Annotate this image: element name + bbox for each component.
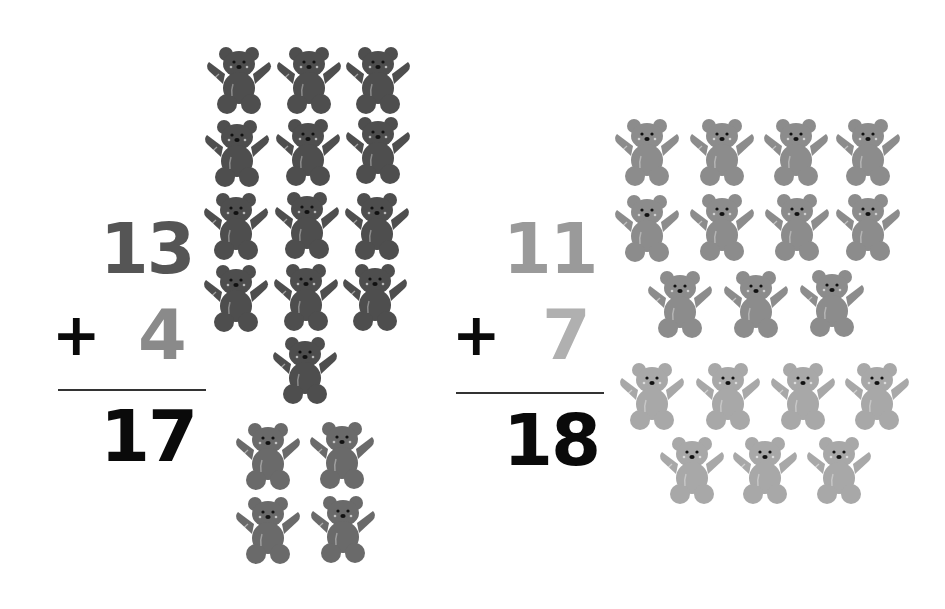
sum-line [58, 389, 206, 391]
bear-icon [658, 434, 726, 506]
bear-icon [341, 261, 409, 333]
bear-icon [688, 191, 756, 263]
bear-icon [694, 360, 762, 432]
bear-icon [205, 44, 273, 116]
bear-icon [271, 334, 339, 406]
bear-icon [762, 116, 830, 188]
bear-icon [234, 420, 302, 492]
bear-icon [274, 116, 342, 188]
plus-sign: + [52, 306, 101, 364]
bear-icon [344, 44, 412, 116]
bear-icon [203, 117, 271, 189]
addend-2: 7 [542, 300, 589, 370]
bear-icon [722, 268, 790, 340]
bear-icon [613, 192, 681, 264]
bear-icon [308, 419, 376, 491]
bear-icon [272, 261, 340, 333]
bear-icon [763, 191, 831, 263]
bear-icon [273, 189, 341, 261]
bear-icon [613, 116, 681, 188]
sum: 17 [100, 400, 196, 472]
bear-icon [618, 360, 686, 432]
addend-2: 4 [138, 300, 185, 370]
bear-icon [202, 262, 270, 334]
bear-icon [309, 493, 377, 565]
bear-icon [798, 267, 866, 339]
sum: 18 [503, 404, 599, 476]
bear-icon [275, 44, 343, 116]
bear-icon [731, 434, 799, 506]
addend-1: 13 [100, 214, 193, 284]
bear-icon [834, 116, 902, 188]
bear-icon [646, 268, 714, 340]
bear-icon [769, 360, 837, 432]
bear-icon [688, 116, 756, 188]
bear-icon [202, 190, 270, 262]
bear-icon [343, 190, 411, 262]
sum-line [456, 392, 604, 394]
plus-sign: + [452, 306, 501, 364]
bear-icon [234, 494, 302, 566]
bear-icon [834, 191, 902, 263]
addend-1: 11 [503, 214, 596, 284]
bear-icon [805, 434, 873, 506]
bear-icon [344, 114, 412, 186]
bear-icon [843, 360, 911, 432]
